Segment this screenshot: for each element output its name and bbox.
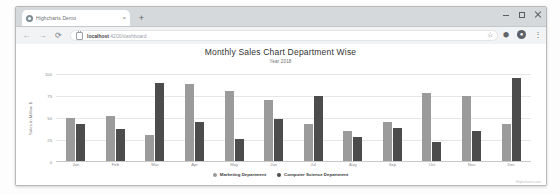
bar-group bbox=[254, 74, 294, 161]
extension-icon[interactable]: ⬢ bbox=[501, 30, 510, 39]
x-axis-tick-label: Oct bbox=[412, 162, 452, 172]
lock-icon bbox=[76, 32, 83, 40]
bar[interactable] bbox=[472, 131, 481, 161]
plot-area: 0255075100 bbox=[56, 74, 531, 162]
sales-bar-chart: Monthly Sales Chart Department Wise Year… bbox=[16, 44, 545, 185]
toolbar-icons: ☆ ⬢ ● ⋮ bbox=[485, 30, 542, 39]
url-host: localhost bbox=[87, 33, 109, 39]
minimize-icon[interactable] bbox=[502, 9, 510, 20]
y-axis-tick-label: 100 bbox=[45, 72, 52, 77]
x-axis-tick-label: Aug bbox=[333, 162, 373, 172]
y-axis-tick-label: 25 bbox=[47, 138, 52, 143]
bar[interactable] bbox=[343, 131, 352, 161]
screenshot-root: Highcharts Demo × + ← → ⟳ localhost :420… bbox=[0, 0, 560, 195]
bar[interactable] bbox=[274, 119, 283, 161]
menu-icon[interactable]: ⋮ bbox=[533, 30, 542, 39]
x-axis-tick-label: Jan bbox=[56, 162, 96, 172]
bar[interactable] bbox=[145, 135, 154, 161]
chart-legend: Marketing DepartmentComputer Science Dep… bbox=[16, 172, 545, 177]
bar-group bbox=[293, 74, 333, 161]
bar-group bbox=[214, 74, 254, 161]
profile-avatar-icon[interactable]: ● bbox=[517, 30, 526, 39]
y-axis-tick-label: 50 bbox=[47, 116, 52, 121]
bar-group bbox=[135, 74, 175, 161]
maximize-icon[interactable] bbox=[518, 9, 526, 20]
bar[interactable] bbox=[432, 142, 441, 161]
bookmark-icon[interactable]: ☆ bbox=[485, 30, 494, 39]
x-axis-tick-label: Nov bbox=[452, 162, 492, 172]
back-icon[interactable]: ← bbox=[21, 30, 32, 41]
forward-icon[interactable]: → bbox=[37, 30, 48, 41]
legend-item[interactable]: Marketing Department bbox=[213, 172, 266, 177]
bar[interactable] bbox=[462, 96, 471, 161]
bar-groups bbox=[56, 74, 531, 161]
bar[interactable] bbox=[235, 139, 244, 161]
x-axis-tick-label: Sep bbox=[373, 162, 413, 172]
bar[interactable] bbox=[512, 78, 521, 161]
legend-swatch-icon bbox=[213, 173, 217, 177]
chart-title: Monthly Sales Chart Department Wise bbox=[16, 47, 545, 57]
bar[interactable] bbox=[264, 100, 273, 161]
address-bar[interactable]: localhost :4200/dashboard bbox=[70, 30, 498, 41]
bar-group bbox=[56, 74, 96, 161]
bar[interactable] bbox=[304, 124, 313, 161]
page-viewport: Monthly Sales Chart Department Wise Year… bbox=[16, 44, 546, 185]
legend-label: Computer Science Department bbox=[284, 172, 348, 177]
globe-icon bbox=[26, 15, 33, 22]
y-axis-title: Sales in Million $ bbox=[26, 74, 36, 162]
legend-swatch-icon bbox=[277, 173, 281, 177]
x-axis-tick-label: Jun bbox=[254, 162, 294, 172]
bar[interactable] bbox=[314, 96, 323, 161]
bar[interactable] bbox=[502, 124, 511, 161]
bar-group bbox=[175, 74, 215, 161]
bar[interactable] bbox=[155, 83, 164, 161]
bar-group bbox=[373, 74, 413, 161]
bar[interactable] bbox=[353, 137, 362, 161]
x-axis-tick-label: May bbox=[214, 162, 254, 172]
chart-credit: Highcharts.com bbox=[516, 180, 541, 184]
reload-icon[interactable]: ⟳ bbox=[53, 30, 64, 41]
y-axis-tick-label: 0 bbox=[50, 160, 52, 165]
bar-group bbox=[333, 74, 373, 161]
x-axis-tick-label: Apr bbox=[175, 162, 215, 172]
bar[interactable] bbox=[225, 91, 234, 161]
chart-subtitle: Year 2018 bbox=[16, 59, 545, 64]
bar[interactable] bbox=[116, 129, 125, 161]
browser-tab-title: Highcharts Demo bbox=[36, 15, 120, 21]
legend-label: Marketing Department bbox=[220, 172, 266, 177]
bar[interactable] bbox=[383, 122, 392, 161]
x-axis-tick-labels: JanFebMarAprMayJunJulAugSepOctNovDec bbox=[56, 162, 531, 172]
close-window-icon[interactable] bbox=[534, 9, 542, 20]
bar[interactable] bbox=[66, 118, 75, 162]
bar[interactable] bbox=[422, 93, 431, 161]
bar-group bbox=[491, 74, 531, 161]
bar[interactable] bbox=[195, 122, 204, 161]
browser-tab-strip: Highcharts Demo × + bbox=[16, 7, 546, 27]
bar-group bbox=[452, 74, 492, 161]
x-axis-tick-label: Mar bbox=[135, 162, 175, 172]
browser-toolbar: ← → ⟳ localhost :4200/dashboard ☆ ⬢ ● ⋮ bbox=[16, 27, 546, 45]
close-icon[interactable]: × bbox=[120, 15, 126, 21]
bar[interactable] bbox=[106, 116, 115, 161]
bar[interactable] bbox=[393, 128, 402, 161]
legend-item[interactable]: Computer Science Department bbox=[277, 172, 348, 177]
y-axis-title-text: Sales in Million $ bbox=[29, 101, 34, 134]
bar-group bbox=[412, 74, 452, 161]
new-tab-button[interactable]: + bbox=[136, 13, 147, 24]
bar[interactable] bbox=[185, 84, 194, 161]
window-controls bbox=[502, 9, 542, 20]
x-axis-tick-label: Dec bbox=[491, 162, 531, 172]
y-axis-tick-label: 75 bbox=[47, 94, 52, 99]
browser-window: Highcharts Demo × + ← → ⟳ localhost :420… bbox=[15, 6, 547, 186]
x-axis-tick-label: Feb bbox=[96, 162, 136, 172]
bar[interactable] bbox=[76, 124, 85, 161]
browser-tab[interactable]: Highcharts Demo × bbox=[22, 10, 130, 26]
url-path: :4200/dashboard bbox=[109, 33, 147, 39]
x-axis-tick-label: Jul bbox=[293, 162, 333, 172]
bar-group bbox=[96, 74, 136, 161]
